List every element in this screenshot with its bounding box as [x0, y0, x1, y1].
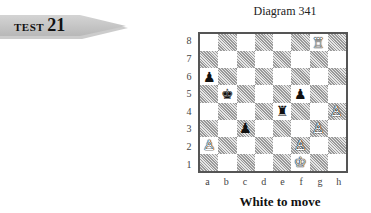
square-c2 — [237, 137, 255, 154]
chess-piece-icon: ♔ — [294, 155, 307, 169]
square-b4 — [218, 103, 236, 120]
square-b5: ♚ — [218, 85, 236, 102]
square-f4 — [291, 103, 309, 120]
square-h2 — [328, 137, 346, 154]
square-h5 — [328, 85, 346, 102]
rank-label: 5 — [184, 85, 194, 103]
square-d3 — [255, 120, 273, 137]
side-to-move: White to move — [220, 194, 340, 210]
square-a2: ♙ — [200, 137, 218, 154]
square-b1 — [218, 154, 236, 171]
file-label: d — [254, 176, 273, 187]
square-g8: ♖ — [310, 34, 328, 51]
square-a6: ♟ — [200, 68, 218, 85]
square-f8 — [291, 34, 309, 51]
square-d1 — [255, 154, 273, 171]
chess-piece-icon: ♙ — [203, 138, 216, 152]
square-d6 — [255, 68, 273, 85]
file-label: c — [236, 176, 255, 187]
square-d5 — [255, 85, 273, 102]
square-f5: ♟ — [291, 85, 309, 102]
square-f1: ♔ — [291, 154, 309, 171]
square-c5 — [237, 85, 255, 102]
file-label: h — [329, 176, 348, 187]
square-b8 — [218, 34, 236, 51]
chess-piece-icon: ♖ — [312, 36, 325, 50]
square-f2: ♙ — [291, 137, 309, 154]
square-e8 — [273, 34, 291, 51]
square-a1 — [200, 154, 218, 171]
file-label: a — [198, 176, 217, 187]
square-g2 — [310, 137, 328, 154]
square-c4 — [237, 103, 255, 120]
square-g4 — [310, 103, 328, 120]
rank-label: 3 — [184, 120, 194, 138]
square-e5 — [273, 85, 291, 102]
chess-piece-icon: ♚ — [221, 87, 234, 101]
square-g3: ♙ — [310, 120, 328, 137]
square-e2 — [273, 137, 291, 154]
square-h7 — [328, 51, 346, 68]
rank-labels: 87654321 — [184, 32, 194, 173]
file-label: e — [273, 176, 292, 187]
rank-label: 4 — [184, 103, 194, 121]
test-banner: TEST21 — [0, 14, 130, 38]
square-b2 — [218, 137, 236, 154]
square-h1 — [328, 154, 346, 171]
diagram-caption: Diagram 341 — [230, 4, 340, 19]
square-e6 — [273, 68, 291, 85]
square-a3 — [200, 120, 218, 137]
square-g6 — [310, 68, 328, 85]
square-a7 — [200, 51, 218, 68]
square-e7 — [273, 51, 291, 68]
square-h3 — [328, 120, 346, 137]
chess-piece-icon: ♜ — [276, 104, 289, 118]
square-d2 — [255, 137, 273, 154]
square-h8 — [328, 34, 346, 51]
square-e1 — [273, 154, 291, 171]
square-e3 — [273, 120, 291, 137]
file-label: b — [217, 176, 236, 187]
square-d4 — [255, 103, 273, 120]
square-c3: ♟ — [237, 120, 255, 137]
rank-label: 7 — [184, 50, 194, 68]
square-a8 — [200, 34, 218, 51]
square-b6 — [218, 68, 236, 85]
square-c6 — [237, 68, 255, 85]
chess-piece-icon: ♟ — [294, 87, 307, 101]
square-g1 — [310, 154, 328, 171]
chess-piece-icon: ♟ — [203, 70, 216, 84]
rank-label: 8 — [184, 32, 194, 50]
chess-piece-icon: ♙ — [312, 121, 325, 135]
square-d8 — [255, 34, 273, 51]
square-h4: ♙ — [328, 103, 346, 120]
chess-board: ♖♟♚♟♜♙♟♙♙♙♔ — [198, 32, 348, 173]
chess-piece-icon: ♙ — [294, 138, 307, 152]
square-e4: ♜ — [273, 103, 291, 120]
square-b7 — [218, 51, 236, 68]
square-a5 — [200, 85, 218, 102]
rank-label: 6 — [184, 67, 194, 85]
file-label: f — [292, 176, 311, 187]
square-c1 — [237, 154, 255, 171]
rank-label: 1 — [184, 155, 194, 173]
chess-piece-icon: ♟ — [239, 121, 252, 135]
square-c7 — [237, 51, 255, 68]
square-f6 — [291, 68, 309, 85]
file-labels: abcdefgh — [198, 176, 348, 187]
square-f7 — [291, 51, 309, 68]
square-b3 — [218, 120, 236, 137]
square-c8 — [237, 34, 255, 51]
banner-label: TEST — [14, 21, 44, 33]
square-g5 — [310, 85, 328, 102]
chess-piece-icon: ♙ — [330, 104, 343, 118]
square-a4 — [200, 103, 218, 120]
file-label: g — [311, 176, 330, 187]
square-h6 — [328, 68, 346, 85]
rank-label: 2 — [184, 138, 194, 156]
test-number: 21 — [47, 15, 65, 35]
square-f3 — [291, 120, 309, 137]
square-d7 — [255, 51, 273, 68]
square-g7 — [310, 51, 328, 68]
